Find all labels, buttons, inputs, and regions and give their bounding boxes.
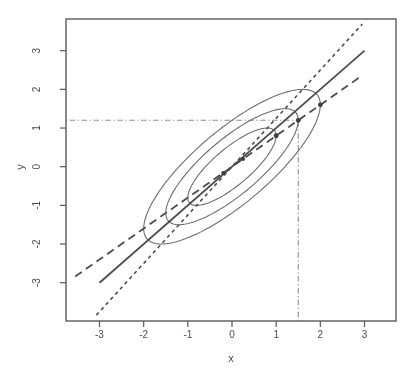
regression-x-on-y: [96, 24, 362, 315]
y-tick-label: 3: [31, 47, 42, 53]
data-point: [296, 118, 301, 123]
y-tick-label: -2: [31, 239, 42, 248]
y-tick-label: 0: [31, 163, 42, 169]
x-axis-ticks-group: -3-2-10123: [95, 321, 368, 340]
data-point: [241, 157, 245, 161]
data-point: [221, 171, 225, 175]
data-point: [274, 133, 279, 138]
regression-lines-group: [75, 24, 364, 315]
x-tick-label: 0: [229, 329, 235, 340]
sd-line: [99, 51, 364, 283]
plot-frame: [66, 19, 396, 321]
x-tick-label: -2: [139, 329, 148, 340]
x-tick-label: -3: [95, 329, 104, 340]
figure: -3-2-10123 -3-2-10123 x y: [0, 0, 414, 383]
x-tick-label: -1: [183, 329, 192, 340]
y-tick-label: 2: [31, 86, 42, 92]
y-axis-ticks-group: -3-2-10123: [31, 47, 66, 287]
data-point: [318, 102, 323, 107]
x-axis-title: x: [228, 352, 234, 364]
x-tick-label: 1: [273, 329, 279, 340]
y-tick-label: -3: [31, 278, 42, 287]
x-tick-label: 2: [318, 329, 324, 340]
bivariate-normal-contour-plot: -3-2-10123 -3-2-10123 x y: [0, 0, 414, 383]
y-axis-title: y: [14, 164, 26, 170]
y-tick-label: 1: [31, 125, 42, 131]
x-tick-label: 3: [362, 329, 368, 340]
y-tick-label: -1: [31, 201, 42, 210]
